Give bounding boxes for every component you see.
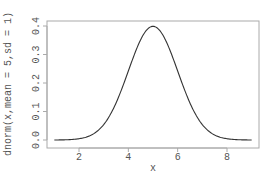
- x-tick-label: 8: [224, 152, 230, 163]
- y-tick-label: 0.4: [31, 17, 42, 35]
- x-tick-label: 6: [175, 152, 181, 163]
- x-tick-label: 4: [125, 152, 131, 163]
- y-axis: 0.00.10.20.30.4: [31, 17, 47, 149]
- x-axis: 2468: [76, 148, 230, 163]
- x-tick-label: 2: [76, 152, 82, 163]
- y-axis-label: dnorm(x,mean = 5,sd = 1): [3, 12, 14, 156]
- y-tick-label: 0.0: [31, 131, 42, 149]
- density-plot: 2468 0.00.10.20.30.4 x dnorm(x,mean = 5,…: [0, 0, 272, 184]
- density-curve: [54, 26, 251, 140]
- plot-box: [47, 21, 259, 148]
- x-axis-label: x: [150, 163, 156, 174]
- y-tick-label: 0.1: [31, 102, 42, 120]
- y-tick-label: 0.2: [31, 74, 42, 92]
- y-tick-label: 0.3: [31, 45, 42, 63]
